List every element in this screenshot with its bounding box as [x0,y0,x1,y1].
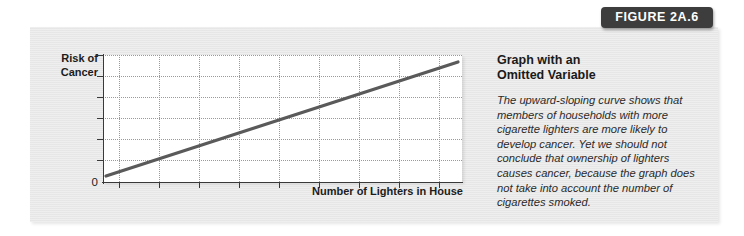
plot-area [103,55,462,182]
caption-title: Graph with an Omitted Variable [497,53,697,82]
x-axis-tick [119,182,120,188]
figure-number-badge: FIGURE 2A.6 [601,7,713,28]
y-axis-tick [97,118,103,119]
y-axis-label: Risk ofCancer [20,52,98,79]
x-axis-label: Number of Lighters in House [183,185,463,197]
figure-root: FIGURE 2A.6 [0,0,744,236]
y-axis-label-line-1: Risk of [61,52,98,64]
y-axis-tick [97,97,103,98]
chart-plot-block [103,55,462,182]
caption-body: The upward-sloping curve shows that memb… [497,93,697,210]
y-axis-tick [97,139,103,140]
x-axis-tick [159,182,160,188]
axis-origin-label: 0 [78,176,98,188]
y-axis-tick [97,160,103,161]
trend-line-series [103,55,462,182]
y-axis-label-line-2: Cancer [61,66,98,78]
x-axis-line [102,182,463,183]
figure-number-label: FIGURE 2A.6 [615,11,699,24]
y-axis-line [103,54,104,184]
caption-column: Graph with an Omitted Variable The upwar… [497,53,697,210]
